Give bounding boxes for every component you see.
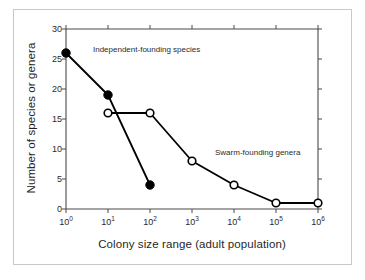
xtick-label-2: 102 (135, 215, 165, 227)
xtick-label-3: 103 (177, 215, 207, 227)
ytick-label-5: 5 (40, 174, 62, 184)
data-point-1-3 (230, 181, 238, 189)
xtick-exp-0: 0 (69, 215, 73, 222)
ytick-label-0: 0 (40, 204, 62, 214)
xtick-exp-2: 2 (153, 215, 157, 222)
data-point-1-0 (104, 109, 112, 117)
xtick-exp-3: 3 (195, 215, 199, 222)
series-line-1 (108, 113, 318, 203)
y-axis-title: Number of species or genera (25, 25, 37, 211)
xtick-base-3: 10 (185, 217, 195, 227)
xtick-base-1: 10 (101, 217, 111, 227)
xtick-exp-1: 1 (111, 215, 115, 222)
xtick-label-0: 100 (51, 215, 81, 227)
xtick-label-4: 104 (219, 215, 249, 227)
xtick-label-6: 106 (303, 215, 333, 227)
data-point-0-1 (104, 91, 112, 99)
data-series (62, 49, 322, 207)
series-line-0 (66, 53, 150, 185)
annotation-independent-founding: Independent-founding species (93, 45, 200, 54)
xtick-base-2: 10 (143, 217, 153, 227)
xtick-base-5: 10 (269, 217, 279, 227)
data-point-0-2 (146, 181, 154, 189)
ytick-label-15: 15 (40, 114, 62, 124)
x-axis-title: Colony size range (adult population) (66, 238, 318, 250)
ytick-label-30: 30 (40, 24, 62, 34)
xtick-base-6: 10 (311, 217, 321, 227)
data-point-1-2 (188, 157, 196, 165)
xtick-exp-5: 5 (279, 215, 283, 222)
ytick-label-20: 20 (40, 84, 62, 94)
xtick-base-4: 10 (227, 217, 237, 227)
xtick-label-1: 101 (93, 215, 123, 227)
xtick-exp-4: 4 (237, 215, 241, 222)
data-point-0-0 (62, 49, 70, 57)
figure-container: 30 25 20 15 10 5 0 100 101 102 103 104 1… (0, 0, 365, 280)
data-point-1-5 (314, 199, 322, 207)
annotation-swarm-founding: Swarm-founding genera (215, 148, 300, 157)
data-point-1-4 (272, 199, 280, 207)
xtick-label-5: 105 (261, 215, 291, 227)
ytick-label-25: 25 (40, 54, 62, 64)
ytick-label-10: 10 (40, 144, 62, 154)
xtick-base-0: 10 (59, 217, 69, 227)
data-point-1-1 (146, 109, 154, 117)
xtick-exp-6: 6 (321, 215, 325, 222)
